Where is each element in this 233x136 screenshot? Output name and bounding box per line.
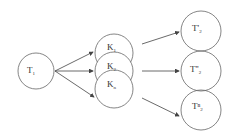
label-k1: K1 bbox=[107, 43, 116, 53]
label-k2: K2 bbox=[107, 62, 116, 72]
arrow-k-t2-n bbox=[142, 98, 179, 116]
label-t2-prime: T'2 bbox=[192, 24, 202, 34]
label-kn: Kn bbox=[107, 80, 116, 90]
arrow-t1-kn bbox=[55, 71, 94, 97]
arrow-t1-k1 bbox=[55, 52, 93, 71]
label-t2-double-prime: T''2 bbox=[190, 65, 201, 75]
node-t1 bbox=[18, 53, 54, 89]
label-t1: T1 bbox=[27, 66, 35, 76]
arrow-k-t2-prime bbox=[142, 32, 179, 44]
label-t2-n: Tⁿ2 bbox=[192, 102, 203, 112]
